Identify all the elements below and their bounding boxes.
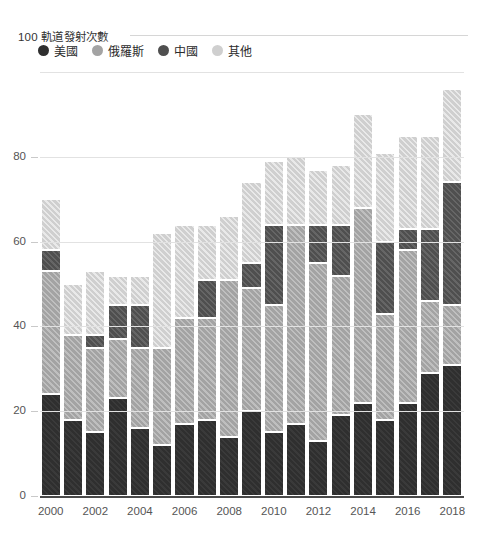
bar-2003[interactable] [108,72,128,496]
bar-segment-2000-中國[interactable] [41,250,61,271]
bar-segment-2017-俄羅斯[interactable] [420,301,440,373]
bar-segment-2007-中國[interactable] [197,280,217,318]
bar-segment-2007-其他[interactable] [197,225,217,280]
bar-2016[interactable] [398,72,418,496]
bar-segment-2004-其他[interactable] [130,276,150,306]
bar-2012[interactable] [308,72,328,496]
xtick-label-2014: 2014 [343,505,383,517]
bar-2007[interactable] [197,72,217,496]
bar-2000[interactable] [41,72,61,496]
bar-segment-2007-俄羅斯[interactable] [197,318,217,420]
bar-2009[interactable] [241,72,261,496]
bar-segment-2016-美國[interactable] [398,403,418,496]
bar-segment-2014-俄羅斯[interactable] [353,208,373,403]
bar-segment-2014-美國[interactable] [353,403,373,496]
ytick-stub-40 [31,326,38,327]
bar-2002[interactable] [85,72,105,496]
bar-segment-2015-其他[interactable] [375,153,395,242]
bar-segment-2012-俄羅斯[interactable] [308,263,328,441]
bar-segment-2002-俄羅斯[interactable] [85,348,105,433]
bar-segment-2005-美國[interactable] [152,445,172,496]
bar-segment-2016-其他[interactable] [398,136,418,229]
gridline-80 [40,157,464,158]
bar-segment-2012-其他[interactable] [308,170,328,225]
legend-item-ru[interactable]: 俄羅斯 [92,42,144,59]
bar-segment-2011-其他[interactable] [286,157,306,225]
bar-segment-2017-中國[interactable] [420,229,440,301]
bar-segment-2010-美國[interactable] [264,432,284,496]
bar-segment-2004-美國[interactable] [130,428,150,496]
legend-label: 俄羅斯 [108,42,144,59]
bar-segment-2002-中國[interactable] [85,335,105,348]
bar-2010[interactable] [264,72,284,496]
bar-2018[interactable] [442,72,462,496]
bar-segment-2015-中國[interactable] [375,242,395,314]
bar-segment-2007-美國[interactable] [197,420,217,496]
bar-2006[interactable] [174,72,194,496]
bar-2014[interactable] [353,72,373,496]
bar-segment-2005-其他[interactable] [152,233,172,347]
legend-item-ot[interactable]: 其他 [212,42,252,59]
bar-segment-2012-中國[interactable] [308,225,328,263]
bar-segment-2009-中國[interactable] [241,263,261,288]
ytick-label-60: 60 [0,235,26,247]
bar-segment-2018-中國[interactable] [442,182,462,305]
bar-2005[interactable] [152,72,172,496]
bar-segment-2002-美國[interactable] [85,432,105,496]
bar-2017[interactable] [420,72,440,496]
bar-segment-2010-中國[interactable] [264,225,284,306]
bar-segment-2005-俄羅斯[interactable] [152,348,172,446]
bar-segment-2003-其他[interactable] [108,276,128,306]
bar-segment-2015-俄羅斯[interactable] [375,314,395,420]
bar-segment-2008-美國[interactable] [219,437,239,496]
bar-segment-2012-美國[interactable] [308,441,328,496]
bar-2008[interactable] [219,72,239,496]
bar-segment-2017-其他[interactable] [420,136,440,229]
bar-segment-2014-其他[interactable] [353,114,373,207]
bar-segment-2011-美國[interactable] [286,424,306,496]
bar-segment-2003-俄羅斯[interactable] [108,339,128,398]
bar-segment-2017-美國[interactable] [420,373,440,496]
xtick-label-2000: 2000 [31,505,71,517]
legend-swatch-ot-icon [212,45,223,56]
legend-item-us[interactable]: 美國 [38,42,78,59]
bar-segment-2006-其他[interactable] [174,225,194,318]
bar-segment-2011-俄羅斯[interactable] [286,225,306,424]
ytick-label-80: 80 [0,150,26,162]
bar-segment-2013-中國[interactable] [331,225,351,276]
bar-segment-2015-美國[interactable] [375,420,395,496]
bar-segment-2009-其他[interactable] [241,182,261,263]
bar-segment-2003-美國[interactable] [108,398,128,496]
bar-segment-2000-俄羅斯[interactable] [41,271,61,394]
bar-2011[interactable] [286,72,306,496]
bar-segment-2013-其他[interactable] [331,165,351,224]
bar-2015[interactable] [375,72,395,496]
bar-segment-2000-美國[interactable] [41,394,61,496]
bar-segment-2013-俄羅斯[interactable] [331,276,351,416]
legend-swatch-us-icon [38,45,49,56]
xtick-label-2004: 2004 [120,505,160,517]
bar-2001[interactable] [63,72,83,496]
bar-segment-2009-美國[interactable] [241,411,261,496]
bar-segment-2001-美國[interactable] [63,420,83,496]
bar-segment-2006-美國[interactable] [174,424,194,496]
bar-segment-2002-其他[interactable] [85,271,105,335]
bar-segment-2004-俄羅斯[interactable] [130,348,150,429]
bar-2013[interactable] [331,72,351,496]
bar-segment-2010-俄羅斯[interactable] [264,305,284,432]
bar-segment-2009-俄羅斯[interactable] [241,288,261,411]
bar-segment-2018-美國[interactable] [442,365,462,496]
bar-segment-2008-其他[interactable] [219,216,239,280]
bar-segment-2013-美國[interactable] [331,415,351,496]
bar-segment-2003-中國[interactable] [108,305,128,339]
bar-segment-2016-中國[interactable] [398,229,418,250]
bar-segment-2006-俄羅斯[interactable] [174,318,194,424]
legend-item-cn[interactable]: 中國 [158,42,198,59]
bar-segment-2010-其他[interactable] [264,161,284,225]
bar-2004[interactable] [130,72,150,496]
bars-group [40,72,464,496]
bar-segment-2018-其他[interactable] [442,89,462,182]
bar-segment-2018-俄羅斯[interactable] [442,305,462,364]
bar-segment-2008-俄羅斯[interactable] [219,280,239,437]
bar-segment-2001-俄羅斯[interactable] [63,335,83,420]
